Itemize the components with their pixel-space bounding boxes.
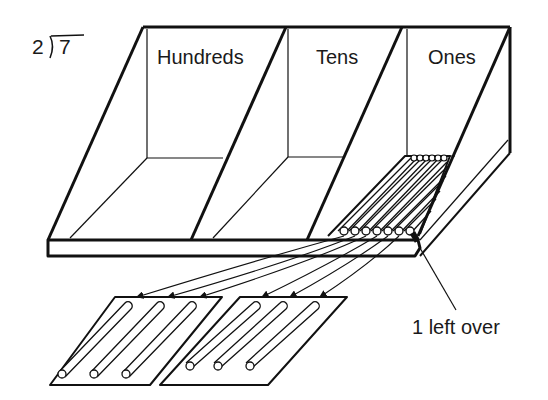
tray-left-side xyxy=(48,27,143,240)
division-problem: 2 7 xyxy=(32,35,84,58)
place-value-tray: Hundreds Tens Ones xyxy=(48,27,510,256)
division-bracket-icon xyxy=(50,36,53,58)
label-hundreds: Hundreds xyxy=(157,46,244,68)
hundreds-floor-diagonal xyxy=(70,158,147,238)
remainder-label: 1 left over xyxy=(412,316,500,338)
arrow-to-group2-stick1 xyxy=(262,236,377,297)
distribution-arrows xyxy=(137,236,399,297)
remainder-callout: 1 left over xyxy=(412,248,500,338)
arrow-to-group1-stick3 xyxy=(200,236,366,297)
arrow-to-group1-stick2 xyxy=(168,236,355,297)
plate-outline xyxy=(50,297,222,385)
ones-sticks xyxy=(328,155,450,243)
tray-front-base xyxy=(48,240,420,256)
divisor: 2 xyxy=(32,35,44,58)
label-ones: Ones xyxy=(428,46,476,68)
remainder-pointer-line xyxy=(420,248,456,310)
group-1-plate xyxy=(50,297,222,385)
arrow-to-group2-stick2 xyxy=(290,236,388,297)
dividend: 7 xyxy=(59,35,71,58)
label-tens: Tens xyxy=(316,46,358,68)
tens-floor-diagonal xyxy=(213,157,288,238)
arrow-to-group1-stick1 xyxy=(137,236,344,297)
place-value-division-diagram: 2 7 Hundreds Tens xyxy=(0,0,548,400)
